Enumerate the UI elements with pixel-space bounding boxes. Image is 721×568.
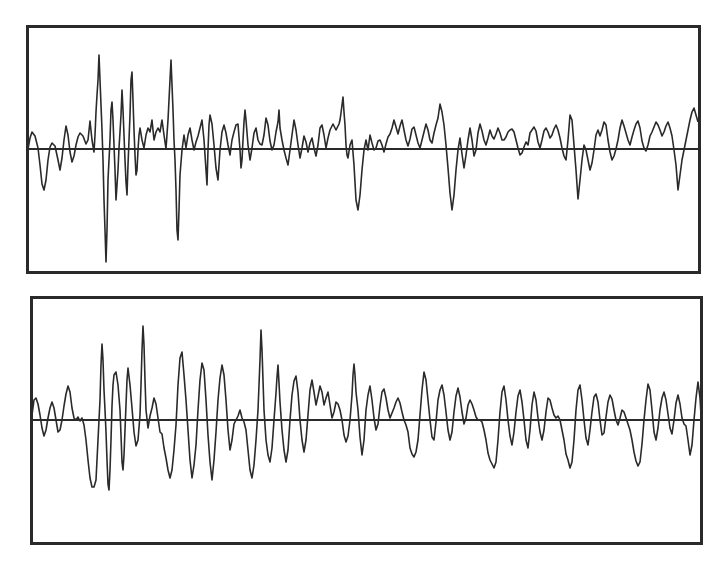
- waveform-line-top: [28, 55, 698, 262]
- waveform-canvas: [0, 0, 721, 568]
- waveform-line-bottom: [32, 326, 701, 490]
